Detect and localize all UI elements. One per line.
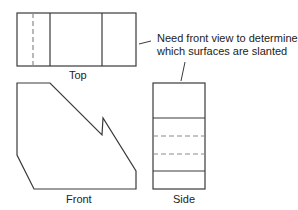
side-view-label: Side [173,193,195,205]
annotation-line-2: which surfaces are slanted [157,45,287,58]
annotation-line-1: Need front view to determine [157,32,298,45]
front-view-label: Front [66,193,92,205]
top-view [17,13,136,66]
top-view-outline [17,13,136,66]
top-view-label: Top [69,69,87,81]
side-view [153,83,205,189]
leader-line-side [181,62,185,81]
leader-line-top [139,41,151,44]
front-view-outline [17,83,136,189]
